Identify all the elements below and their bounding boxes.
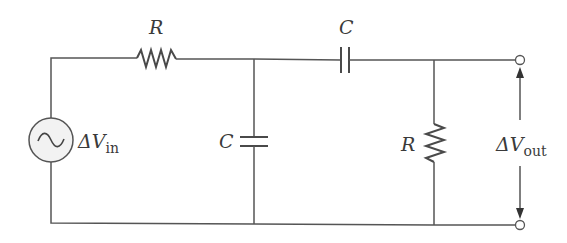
resistor-r2-icon xyxy=(426,124,444,162)
circuit-diagram: R C C R ΔVin ΔVout xyxy=(0,0,567,243)
label-r1: R xyxy=(148,16,163,38)
label-vin-sub: in xyxy=(105,140,119,156)
output-terminal-bottom xyxy=(516,221,525,230)
arrow-up-icon xyxy=(516,67,524,78)
wire-top-left xyxy=(51,58,137,118)
wire-bottom xyxy=(51,162,516,225)
label-c1: C xyxy=(219,130,234,152)
label-vout-main: ΔV xyxy=(495,133,526,155)
label-c2: C xyxy=(339,16,354,38)
arrow-down-icon xyxy=(516,208,524,219)
output-terminal-top xyxy=(516,56,525,65)
label-vin: ΔVin xyxy=(77,130,119,156)
label-vin-main: ΔV xyxy=(77,130,108,152)
resistor-r1-icon xyxy=(137,50,176,67)
label-vout: ΔVout xyxy=(495,133,547,159)
wire-top-middle xyxy=(176,59,341,60)
label-r2: R xyxy=(400,133,415,155)
label-vout-sub: out xyxy=(523,143,546,159)
